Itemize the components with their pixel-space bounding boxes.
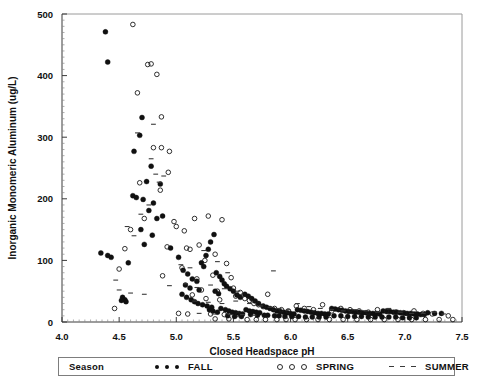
filled-circle-icon	[175, 365, 179, 369]
data-point-fall	[414, 315, 419, 320]
data-point-spring	[159, 145, 164, 150]
data-point-spring	[160, 274, 165, 279]
open-circle-icon	[289, 364, 295, 370]
series-summer	[113, 124, 446, 315]
data-point-fall	[204, 253, 209, 258]
data-point-fall	[160, 214, 165, 219]
data-point-fall	[109, 255, 114, 260]
data-point-spring	[275, 317, 280, 322]
data-point-fall	[98, 251, 103, 256]
legend-entry-summer[interactable]: SUMMER	[389, 361, 469, 372]
dash-icon	[411, 366, 416, 367]
x-tick-label: 5.5	[227, 331, 241, 342]
y-tick-label: 400	[37, 70, 53, 81]
data-point-spring	[211, 273, 216, 278]
axis-labels-group: 01002003004005004.04.55.05.56.06.57.07.5…	[7, 9, 469, 358]
data-point-fall	[199, 260, 204, 265]
data-point-fall	[146, 208, 151, 213]
data-point-fall	[151, 201, 156, 206]
data-point-spring	[327, 317, 332, 322]
y-tick-label: 300	[37, 132, 53, 143]
data-point-fall	[180, 292, 185, 297]
y-tick-label: 0	[48, 317, 53, 328]
data-point-fall	[218, 306, 223, 311]
data-point-fall	[154, 216, 159, 221]
data-point-fall	[248, 312, 253, 317]
x-tick-label: 4.5	[113, 331, 127, 342]
data-point-fall	[439, 311, 444, 316]
data-point-fall	[124, 299, 129, 304]
data-point-fall	[345, 314, 350, 319]
data-point-fall	[185, 271, 190, 276]
data-point-spring	[229, 275, 234, 280]
data-point-fall	[332, 313, 337, 318]
data-point-spring	[158, 188, 163, 193]
dash-icon	[400, 366, 405, 367]
data-point-fall	[359, 314, 364, 319]
data-point-fall	[200, 302, 205, 307]
legend-label-spring: SPRING	[316, 361, 354, 372]
x-tick-label: 4.0	[55, 331, 68, 342]
data-point-fall	[324, 315, 329, 320]
data-point-fall	[142, 242, 147, 247]
data-point-fall	[190, 276, 195, 281]
data-point-spring	[151, 145, 156, 150]
open-circle-icon	[301, 364, 307, 370]
data-point-spring	[155, 72, 160, 77]
data-point-fall	[373, 315, 378, 320]
data-point-fall	[188, 286, 193, 291]
spring-marker-glyphs	[277, 364, 307, 370]
legend-label-summer: SUMMER	[425, 361, 469, 372]
data-point-spring	[217, 298, 222, 303]
x-tick-label: 7.5	[455, 331, 469, 342]
axes-group	[62, 14, 462, 322]
x-axis-title: Closed Headspace pH	[209, 346, 314, 357]
data-point-spring	[265, 292, 270, 297]
data-point-fall	[176, 255, 181, 260]
y-tick-label: 100	[37, 255, 53, 266]
data-point-spring	[128, 227, 133, 232]
data-point-fall	[206, 247, 211, 252]
data-point-fall	[132, 149, 137, 154]
dash-icon	[389, 366, 394, 367]
x-tick-label: 7.0	[398, 331, 411, 342]
data-point-fall	[103, 29, 108, 34]
data-point-spring	[224, 261, 229, 266]
data-point-spring	[446, 314, 451, 319]
data-point-spring	[137, 180, 142, 185]
data-point-fall	[238, 295, 243, 300]
data-point-fall	[138, 227, 143, 232]
data-point-spring	[167, 149, 172, 154]
data-point-fall	[140, 115, 145, 120]
data-point-spring	[204, 296, 209, 301]
data-point-fall	[386, 315, 391, 320]
data-point-fall	[282, 314, 287, 319]
data-point-fall	[137, 133, 142, 138]
x-tick-label: 6.0	[284, 331, 297, 342]
data-point-spring	[245, 317, 250, 322]
data-point-fall	[149, 164, 154, 169]
series-spring	[112, 22, 455, 322]
data-point-spring	[451, 317, 456, 322]
data-point-spring	[159, 115, 164, 120]
data-point-fall	[425, 310, 430, 315]
data-point-spring	[220, 217, 225, 222]
data-point-fall	[134, 195, 139, 200]
data-point-fall	[141, 197, 146, 202]
scatter-plot-figure: 01002003004005004.04.55.05.56.06.57.07.5…	[0, 0, 483, 383]
data-point-spring	[135, 91, 140, 96]
legend-entry-spring[interactable]: SPRING	[277, 361, 354, 372]
data-point-spring	[213, 317, 218, 322]
x-tick-label: 6.5	[341, 331, 355, 342]
data-point-spring	[112, 306, 117, 311]
plot-canvas: 01002003004005004.04.55.05.56.06.57.07.5…	[0, 0, 483, 383]
data-point-spring	[192, 216, 197, 221]
legend-entry-fall[interactable]: FALL	[155, 361, 213, 372]
y-tick-label: 500	[37, 9, 53, 20]
filled-circle-icon	[165, 365, 169, 369]
legend-box: Season FALL SPRING	[58, 357, 455, 376]
data-point-fall	[212, 232, 217, 237]
summer-marker-glyphs	[389, 366, 416, 367]
data-point-spring	[123, 246, 128, 251]
x-tick-label: 5.0	[170, 331, 183, 342]
